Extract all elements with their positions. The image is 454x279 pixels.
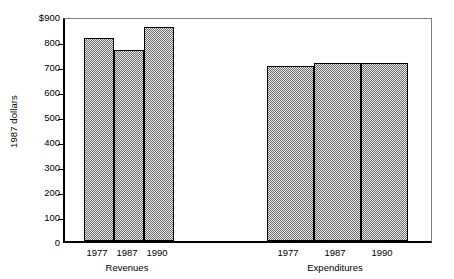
bars-layer <box>65 19 431 241</box>
group-label: Expenditures <box>275 262 395 274</box>
y-tick-label: 600 <box>24 88 60 98</box>
y-tick-label: 700 <box>24 63 60 73</box>
x-axis-tick-labels: 197719871990197719871990 <box>0 247 454 261</box>
group-label: Revenues <box>67 262 187 274</box>
bar-expenditures-1987 <box>314 63 361 241</box>
y-tick-label: 800 <box>24 38 60 48</box>
y-tick-label: 400 <box>24 138 60 148</box>
y-tick-label: 300 <box>24 163 60 173</box>
y-tick-mark <box>58 194 65 195</box>
y-tick-label: $900 <box>24 13 60 23</box>
y-axis-title: 1987 dollars <box>2 0 24 243</box>
x-tick-label: 1990 <box>352 247 412 259</box>
y-tick-mark <box>58 94 65 95</box>
x-tick-label: 1990 <box>127 247 187 259</box>
y-tick-label: 200 <box>24 188 60 198</box>
y-tick-label: 500 <box>24 113 60 123</box>
bar-revenues-1987 <box>114 50 144 241</box>
bar-revenues-1990 <box>144 27 174 241</box>
x-axis-group-labels: RevenuesExpenditures <box>0 262 454 276</box>
y-tick-mark <box>58 44 65 45</box>
y-tick-label: 100 <box>24 213 60 223</box>
y-tick-mark <box>58 144 65 145</box>
bar-expenditures-1977 <box>267 66 314 241</box>
y-tick-mark <box>58 119 65 120</box>
y-axis-tick-labels: 0100200300400500600700800$900 <box>24 0 60 279</box>
y-axis-title-text: 1987 dollars <box>8 95 19 148</box>
bar-revenues-1977 <box>84 38 114 241</box>
y-tick-mark <box>58 69 65 70</box>
y-tick-mark <box>58 219 65 220</box>
bar-expenditures-1990 <box>361 63 408 241</box>
bar-chart: 1987 dollars 0100200300400500600700800$9… <box>0 0 454 279</box>
plot-area <box>63 18 432 243</box>
y-tick-mark <box>58 169 65 170</box>
